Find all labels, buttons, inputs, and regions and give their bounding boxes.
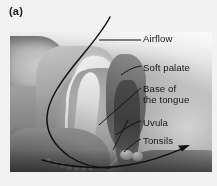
- label-base-of-the-tongue: Base of the tongue: [143, 83, 189, 106]
- label-base-of-the-tongue-line1: Base of: [143, 83, 189, 94]
- figure-panel-a: (a): [0, 0, 217, 186]
- panel-label: (a): [9, 6, 23, 17]
- label-airflow: Airflow: [143, 33, 173, 44]
- label-uvula: Uvula: [143, 117, 168, 128]
- label-base-of-the-tongue-line2: the tongue: [143, 94, 189, 105]
- label-tonsils: Tonsils: [143, 135, 173, 146]
- label-soft-palate: Soft palate: [143, 62, 190, 73]
